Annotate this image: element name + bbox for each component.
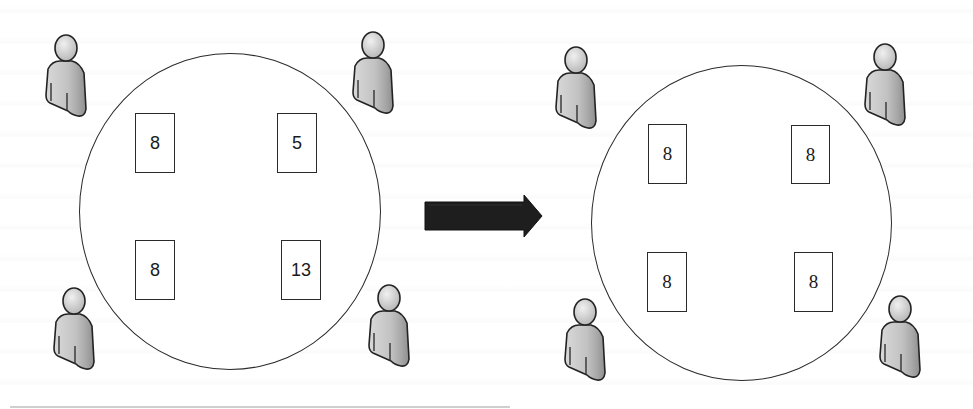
table-before [79, 53, 381, 370]
person-icon [861, 40, 909, 128]
diagram: 8 5 8 13 8 8 8 8 [0, 0, 973, 409]
person-icon [561, 295, 609, 383]
card-value: 8 [662, 271, 672, 293]
card-value: 13 [291, 260, 311, 281]
card-after-bottom-left: 8 [647, 252, 687, 312]
card-before-top-right: 5 [277, 113, 317, 173]
card-value: 8 [150, 260, 160, 281]
card-value: 8 [806, 144, 816, 166]
card-value: 8 [150, 133, 160, 154]
card-after-top-left: 8 [648, 124, 687, 184]
card-before-bottom-left: 8 [135, 240, 175, 300]
right-arrow-icon [424, 194, 544, 238]
person-icon [365, 281, 413, 369]
divider [10, 406, 510, 408]
person-icon [552, 43, 600, 131]
person-icon [876, 292, 924, 380]
person-icon [42, 31, 90, 119]
card-before-top-left: 8 [135, 113, 175, 173]
card-after-bottom-right: 8 [794, 252, 833, 312]
card-value: 8 [809, 271, 819, 293]
person-icon [50, 284, 98, 372]
card-before-bottom-right: 13 [281, 240, 321, 300]
person-icon [349, 28, 397, 116]
card-value: 8 [663, 143, 673, 165]
card-value: 5 [292, 133, 302, 154]
table-after [591, 65, 892, 381]
card-after-top-right: 8 [791, 125, 830, 184]
